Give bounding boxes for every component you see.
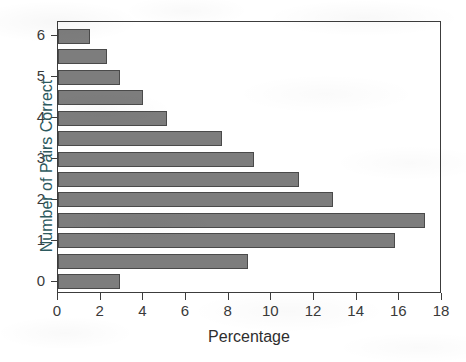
x-axis-tick-label: 14: [336, 303, 376, 318]
bar-chart-figure: 0123456024681012141618 Percentage Number…: [0, 0, 466, 362]
bar: [58, 90, 143, 105]
bar: [58, 172, 299, 187]
x-axis-tick-label: 10: [250, 303, 290, 318]
bar: [58, 254, 248, 269]
bar: [58, 49, 107, 64]
x-axis-title: Percentage: [57, 328, 441, 346]
x-axis-tick: [100, 293, 101, 300]
bar: [58, 192, 333, 207]
bar: [58, 131, 222, 146]
x-axis-tick: [398, 293, 399, 300]
bar: [58, 111, 167, 126]
x-axis-tick: [57, 293, 58, 300]
x-axis-tick-label: 4: [122, 303, 162, 318]
x-axis-tick: [228, 293, 229, 300]
x-axis-tick-label: 6: [165, 303, 205, 318]
x-axis-tick: [185, 293, 186, 300]
y-axis-title: Number of Pairs Correct: [38, 30, 56, 302]
x-axis-tick-label: 18: [421, 303, 461, 318]
bar: [58, 29, 90, 44]
bar: [58, 233, 395, 248]
bar: [58, 274, 120, 289]
x-axis-tick: [270, 293, 271, 300]
x-axis-tick-label: 8: [208, 303, 248, 318]
x-axis-tick-label: 12: [293, 303, 333, 318]
x-axis-tick: [313, 293, 314, 300]
x-axis-tick-label: 2: [80, 303, 120, 318]
x-axis-tick: [142, 293, 143, 300]
plot-area: [57, 21, 441, 293]
x-axis-tick-label: 0: [37, 303, 77, 318]
bar: [58, 213, 425, 228]
x-axis-tick: [441, 293, 442, 300]
x-axis-tick-label: 16: [378, 303, 418, 318]
x-axis-tick: [356, 293, 357, 300]
bar: [58, 70, 120, 85]
bar: [58, 152, 254, 167]
